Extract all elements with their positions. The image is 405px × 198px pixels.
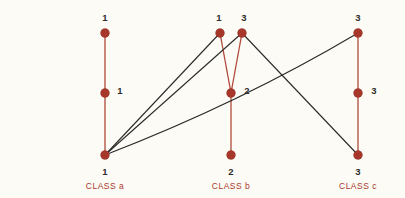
node-b-execute[interactable] [227,89,236,98]
class-label-b: CLASS b [212,181,250,191]
edge-layer [0,0,405,198]
node-value-a-execute: 1 [117,85,122,96]
node-value-a-read: 1 [102,12,107,23]
inter-class-edge-b-read3-to-c-write [242,33,358,155]
node-b-read-3[interactable] [238,29,247,38]
node-value-a-write: 1 [102,166,107,177]
node-value-b-execute: 2 [244,85,249,96]
class-label-a: CLASS a [86,181,124,191]
node-c-read[interactable] [354,29,363,38]
node-c-execute[interactable] [354,89,363,98]
inter-class-edge-a-write-to-b-read3 [105,33,242,155]
node-value-b-write: 2 [228,166,233,177]
intra-class-edge-b-read1-to-execute [220,33,231,93]
node-value-c-execute: 3 [371,85,376,96]
node-value-b-read-3: 3 [241,12,246,23]
class-label-c: CLASS c [339,181,377,191]
node-a-execute[interactable] [101,89,110,98]
node-value-b-read-1: 1 [216,12,221,23]
node-a-write[interactable] [101,151,110,160]
diagram-canvas: 1111322333 CLASS aCLASS bCLASS c [0,0,405,198]
node-c-write[interactable] [354,151,363,160]
node-value-c-read: 3 [355,12,360,23]
node-b-read-1[interactable] [216,29,225,38]
node-b-write[interactable] [227,151,236,160]
node-a-read[interactable] [101,29,110,38]
node-value-c-write: 3 [355,166,360,177]
